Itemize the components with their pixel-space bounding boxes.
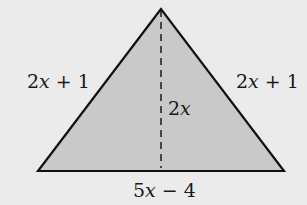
height-label: 2x: [168, 97, 191, 119]
left-side-label: 2x + 1: [27, 70, 90, 92]
diagram-svg: 2x + 1 2x + 1 2x 5x − 4: [0, 0, 307, 205]
right-side-label: 2x + 1: [236, 70, 299, 92]
triangle-diagram: 2x + 1 2x + 1 2x 5x − 4: [0, 0, 307, 205]
base-label: 5x − 4: [133, 179, 196, 201]
